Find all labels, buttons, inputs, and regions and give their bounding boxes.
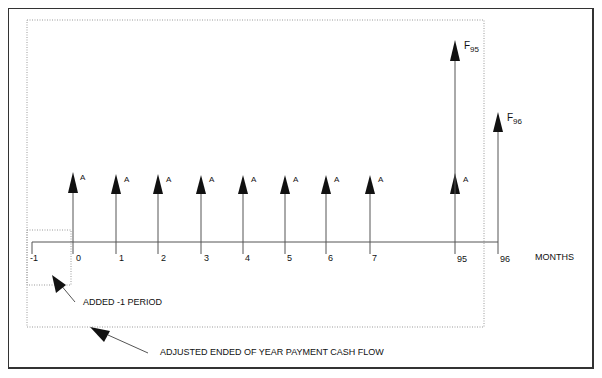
- payment-arrow-1: [111, 174, 121, 242]
- adjusted-flow-annotation: ADJUSTED ENDED OF YEAR PAYMENT CASH FLOW: [160, 348, 384, 357]
- future-value-arrow-95: [450, 40, 460, 242]
- tick-label: 7: [372, 254, 377, 263]
- axis-ticks: [32, 242, 498, 254]
- axis-label: MONTHS: [535, 253, 574, 262]
- payment-label: A: [463, 176, 468, 184]
- cash-flow-diagram: [0, 0, 602, 378]
- payment-arrow-4: [238, 175, 248, 242]
- future-value-arrow-96: [493, 112, 503, 242]
- tick-label: 96: [500, 255, 510, 264]
- tick-label: 4: [245, 254, 250, 263]
- payment-arrow-5: [280, 175, 290, 242]
- tick-label: 3: [204, 254, 209, 263]
- tick-label: 6: [328, 254, 333, 263]
- payment-label: A: [334, 176, 339, 184]
- future-value-label-95: F95: [464, 41, 479, 54]
- adjusted-cash-flow-box: [27, 20, 484, 327]
- tick-label: -1: [30, 254, 38, 263]
- payment-arrow-2: [153, 174, 163, 242]
- tick-label: 2: [161, 254, 166, 263]
- payment-arrow-3: [196, 175, 206, 242]
- added-period-annotation: ADDED -1 PERIOD: [83, 298, 162, 307]
- payment-label: A: [293, 176, 298, 184]
- tick-label: 1: [119, 254, 124, 263]
- payment-label: A: [166, 176, 171, 184]
- payment-arrow-7: [365, 175, 375, 242]
- payment-label: A: [80, 174, 85, 182]
- payment-label: A: [378, 176, 383, 184]
- tick-label: 95: [457, 255, 467, 264]
- payment-arrow-0: [68, 172, 78, 242]
- payment-label: A: [124, 176, 129, 184]
- payment-label: A: [251, 176, 256, 184]
- added-period-pointer: [52, 275, 75, 302]
- future-value-label-96: F96: [507, 113, 522, 126]
- tick-label: 5: [287, 254, 292, 263]
- payment-label: A: [209, 176, 214, 184]
- tick-label: 0: [76, 254, 81, 263]
- adjusted-flow-pointer: [90, 327, 148, 353]
- payment-arrow-6: [321, 175, 331, 242]
